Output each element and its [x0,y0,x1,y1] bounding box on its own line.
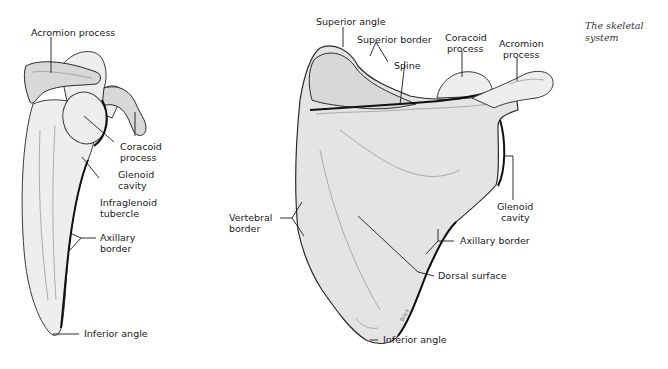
label-glenoid-cavity-1: Glenoid [497,201,533,212]
label-inferior-angle: Inferior angle [383,334,447,345]
scapula-diagram: The skeletal system Acromion process Cor… [0,0,668,369]
label-inferior-angle: Inferior angle [84,328,148,339]
label-acromion-process: Acromion process [31,27,115,38]
label-vertebral-border-2: border [229,223,260,234]
label-axillary-border: Axillary border [460,235,530,246]
label-infraglenoid-tubercle-1: Infraglenoid [100,197,157,208]
label-coracoid-process-2: process [447,43,484,54]
leader-superior-border [370,42,388,62]
label-coracoid-process-1: Coracoid [120,141,162,152]
section-title-line1: The skeletal [585,20,644,31]
label-superior-angle: Superior angle [316,16,386,27]
label-axillary-border-1: Axillary [100,232,136,243]
label-dorsal-surface: Dorsal surface [438,270,507,281]
label-glenoid-cavity-2: cavity [118,180,147,191]
leader-glenoid [505,156,513,200]
label-glenoid-cavity-1: Glenoid [118,169,154,180]
label-acromion-process-1: Acromion [499,38,544,49]
label-spine: Spine [394,60,421,71]
posterior-view-scapula: Brick Superior angle Superior border Spi… [229,16,553,345]
section-title-line2: system [585,32,619,43]
label-coracoid-process-1: Coracoid [445,32,487,43]
leader-axillary-border [70,233,81,250]
label-coracoid-process-2: process [120,152,157,163]
label-infraglenoid-tubercle-2: tubercle [100,208,139,219]
label-acromion-process-2: process [503,49,540,60]
label-vertebral-border-1: Vertebral [229,212,272,223]
lateral-view-scapula: Acromion process Coracoid process Glenoi… [22,27,162,339]
label-axillary-border-2: border [100,243,131,254]
section-title: The skeletal system [585,20,644,43]
label-superior-border: Superior border [357,34,432,45]
label-glenoid-cavity-2: cavity [501,212,530,223]
